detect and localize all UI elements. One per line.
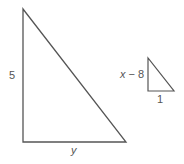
small-vertical-leg-label: x − 8 xyxy=(120,69,144,80)
large-right-triangle xyxy=(23,9,126,142)
small-horizontal-leg-label: 1 xyxy=(157,94,163,105)
small-right-triangle xyxy=(148,58,174,91)
large-horizontal-leg-label: y xyxy=(71,145,77,156)
triangles-figure xyxy=(0,0,184,164)
large-vertical-leg-label: 5 xyxy=(9,70,15,81)
